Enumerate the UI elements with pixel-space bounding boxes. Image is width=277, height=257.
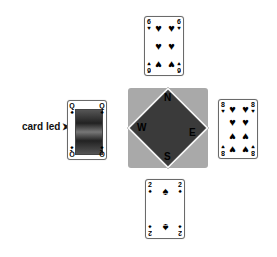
- rank-index: Q♠: [69, 103, 75, 115]
- rank-index: 2♠: [177, 182, 183, 194]
- spade-icon: ♠: [160, 186, 171, 197]
- compass-table: N W E S: [128, 88, 208, 168]
- heart-icon: ♥: [227, 117, 238, 128]
- rank-index: 2♠: [177, 224, 183, 236]
- heart-icon: ♥: [227, 144, 238, 155]
- heart-icon: ♥: [227, 104, 238, 115]
- rank-index: 6♥: [146, 61, 152, 73]
- card-west[interactable]: Q♠ Q♠ Q♠ Q♠: [67, 100, 107, 160]
- heart-icon: ♥: [240, 144, 251, 155]
- compass-north: N: [164, 92, 171, 103]
- rank-index: 2♠: [147, 224, 153, 236]
- compass-south: S: [164, 151, 171, 162]
- card-east[interactable]: 8♥ 8♥ 8♥ 8♥ ♥ ♥ ♥ ♥ ♥ ♥ ♥ ♥: [218, 99, 258, 159]
- rank-index: Q♠: [99, 103, 105, 115]
- rank-index: Q♠: [69, 145, 75, 157]
- rank-index: 6♥: [146, 19, 152, 31]
- compass-east: E: [189, 127, 196, 138]
- rank-index: Q♠: [99, 145, 105, 157]
- heart-icon: ♥: [166, 41, 177, 52]
- card-led-text: card led: [22, 121, 60, 132]
- card-north[interactable]: 6♥ 6♥ 6♥ 6♥ ♥ ♥ ♥ ♥ ♥ ♥: [144, 16, 184, 76]
- card-south[interactable]: 2♠ 2♠ 2♠ 2♠ ♠ ♠: [145, 179, 185, 239]
- heart-icon: ♥: [153, 41, 164, 52]
- heart-icon: ♥: [227, 131, 238, 142]
- heart-icon: ♥: [240, 104, 251, 115]
- heart-icon: ♥: [153, 59, 164, 70]
- heart-icon: ♥: [153, 23, 164, 34]
- spade-icon: ♠: [160, 222, 171, 233]
- rank-index: 8♥: [220, 144, 226, 156]
- card-led-label: card led➤: [22, 121, 70, 132]
- heart-icon: ♥: [240, 117, 251, 128]
- compass-west: W: [137, 122, 146, 133]
- heart-icon: ♥: [166, 23, 177, 34]
- rank-index: 8♥: [220, 102, 226, 114]
- heart-icon: ♥: [240, 131, 251, 142]
- heart-icon: ♥: [166, 59, 177, 70]
- rank-index: 2♠: [147, 182, 153, 194]
